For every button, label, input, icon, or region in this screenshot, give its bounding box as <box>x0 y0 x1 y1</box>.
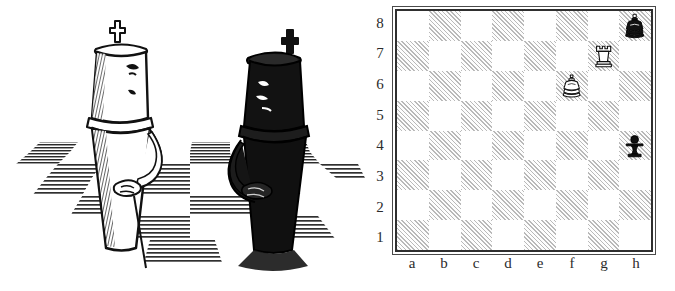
square-g3[interactable] <box>588 160 620 190</box>
rank-label-5: 5 <box>370 100 390 131</box>
square-b6[interactable] <box>429 71 461 101</box>
square-f7[interactable] <box>556 41 588 71</box>
square-f1[interactable] <box>556 220 588 250</box>
square-d2[interactable] <box>492 190 524 220</box>
square-d6[interactable] <box>492 71 524 101</box>
file-label-d: d <box>492 256 524 284</box>
square-g2[interactable] <box>588 190 620 220</box>
page-root: Pen-and-ink drawing of two anthropomorph… <box>0 0 675 291</box>
square-h1[interactable] <box>619 220 651 250</box>
square-d7[interactable] <box>492 41 524 71</box>
file-label-row: a b c d e f g h <box>396 256 652 284</box>
chess-diagram: 8 7 6 5 4 3 2 1 <box>366 0 675 291</box>
square-h5[interactable] <box>619 101 651 131</box>
square-h2[interactable] <box>619 190 651 220</box>
illustration-canvas <box>0 0 365 291</box>
square-c8[interactable] <box>461 11 493 41</box>
rank-label-3: 3 <box>370 161 390 192</box>
white-rook-on-g7[interactable] <box>588 41 620 71</box>
square-g1[interactable] <box>588 220 620 250</box>
file-label-a: a <box>396 256 428 284</box>
file-label-h: h <box>620 256 652 284</box>
square-b3[interactable] <box>429 160 461 190</box>
square-c7[interactable] <box>461 41 493 71</box>
square-d5[interactable] <box>492 101 524 131</box>
rank-label-2: 2 <box>370 192 390 223</box>
square-h4[interactable] <box>619 131 651 161</box>
square-h7[interactable] <box>619 41 651 71</box>
white-king-cross-icon <box>110 21 125 42</box>
square-c2[interactable] <box>461 190 493 220</box>
square-b5[interactable] <box>429 101 461 131</box>
file-label-g: g <box>588 256 620 284</box>
square-g8[interactable] <box>588 11 620 41</box>
square-d8[interactable] <box>492 11 524 41</box>
rank-label-8: 8 <box>370 8 390 39</box>
square-f2[interactable] <box>556 190 588 220</box>
chess-board-frame <box>392 6 656 255</box>
square-c3[interactable] <box>461 160 493 190</box>
square-e5[interactable] <box>524 101 556 131</box>
square-e7[interactable] <box>524 41 556 71</box>
square-a1[interactable] <box>397 220 429 250</box>
square-a3[interactable] <box>397 160 429 190</box>
square-b7[interactable] <box>429 41 461 71</box>
square-g7[interactable] <box>588 41 620 71</box>
square-e3[interactable] <box>524 160 556 190</box>
square-g6[interactable] <box>588 71 620 101</box>
white-king-on-f6[interactable] <box>556 71 588 101</box>
black-king-on-h8[interactable] <box>619 11 651 41</box>
square-a7[interactable] <box>397 41 429 71</box>
rank-label-column: 8 7 6 5 4 3 2 1 <box>370 8 390 253</box>
square-e4[interactable] <box>524 131 556 161</box>
square-a5[interactable] <box>397 101 429 131</box>
rank-label-6: 6 <box>370 69 390 100</box>
square-h6[interactable] <box>619 71 651 101</box>
square-f6[interactable] <box>556 71 588 101</box>
square-b4[interactable] <box>429 131 461 161</box>
square-c4[interactable] <box>461 131 493 161</box>
black-pawn-on-h4[interactable] <box>619 131 651 161</box>
rank-label-4: 4 <box>370 131 390 162</box>
square-h3[interactable] <box>619 160 651 190</box>
square-d1[interactable] <box>492 220 524 250</box>
chess-kings-illustration: Pen-and-ink drawing of two anthropomorph… <box>0 0 365 291</box>
square-a6[interactable] <box>397 71 429 101</box>
square-f3[interactable] <box>556 160 588 190</box>
square-a2[interactable] <box>397 190 429 220</box>
file-label-c: c <box>460 256 492 284</box>
square-c5[interactable] <box>461 101 493 131</box>
square-e8[interactable] <box>524 11 556 41</box>
square-f8[interactable] <box>556 11 588 41</box>
chess-board-grid <box>397 11 651 250</box>
perspective-floor <box>0 136 365 262</box>
square-b8[interactable] <box>429 11 461 41</box>
square-c1[interactable] <box>461 220 493 250</box>
square-c6[interactable] <box>461 71 493 101</box>
square-g4[interactable] <box>588 131 620 161</box>
square-h8[interactable] <box>619 11 651 41</box>
file-label-f: f <box>556 256 588 284</box>
square-e2[interactable] <box>524 190 556 220</box>
square-g5[interactable] <box>588 101 620 131</box>
square-b1[interactable] <box>429 220 461 250</box>
square-d4[interactable] <box>492 131 524 161</box>
square-a4[interactable] <box>397 131 429 161</box>
rank-label-1: 1 <box>370 222 390 253</box>
rank-label-7: 7 <box>370 39 390 70</box>
square-e1[interactable] <box>524 220 556 250</box>
square-a8[interactable] <box>397 11 429 41</box>
square-b2[interactable] <box>429 190 461 220</box>
square-e6[interactable] <box>524 71 556 101</box>
chess-board-border <box>395 9 653 252</box>
square-d3[interactable] <box>492 160 524 190</box>
square-f5[interactable] <box>556 101 588 131</box>
file-label-e: e <box>524 256 556 284</box>
square-f4[interactable] <box>556 131 588 161</box>
black-king-cross-icon <box>282 30 298 53</box>
file-label-b: b <box>428 256 460 284</box>
